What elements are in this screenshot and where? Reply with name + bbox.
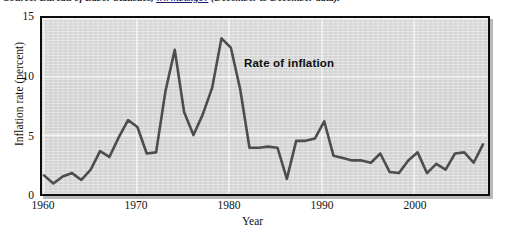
horizontal-gridlines bbox=[42, 19, 487, 136]
y-axis-title: Inflation rate (percent) bbox=[13, 19, 25, 169]
inflation-chart-figure: 15 10 5 0 Inflation rate (percent) bbox=[0, 0, 505, 233]
x-axis-title: Year bbox=[0, 215, 505, 227]
x-tick-label-1960: 1960 bbox=[23, 199, 63, 211]
plot-area bbox=[40, 16, 490, 196]
x-tick-label-1980: 1980 bbox=[209, 199, 249, 211]
plot-svg bbox=[42, 18, 487, 193]
series-annotation-label: Rate of inflation bbox=[244, 57, 334, 69]
x-tick-label-1990: 1990 bbox=[302, 199, 342, 211]
x-tick-label-1970: 1970 bbox=[116, 199, 156, 211]
x-tick-label-2000: 2000 bbox=[395, 199, 435, 211]
